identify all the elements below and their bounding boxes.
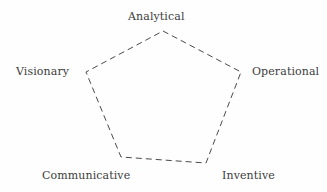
node-label-visionary: Visionary	[16, 65, 69, 78]
pentagon-shape	[86, 31, 241, 163]
node-label-analytical: Analytical	[128, 10, 185, 23]
node-label-inventive: Inventive	[222, 169, 275, 182]
pentagon-diagram: Analytical Visionary Operational Communi…	[0, 0, 327, 192]
node-label-communicative: Communicative	[42, 169, 130, 182]
pentagon-outline-svg	[0, 0, 327, 192]
node-label-operational: Operational	[252, 65, 319, 78]
